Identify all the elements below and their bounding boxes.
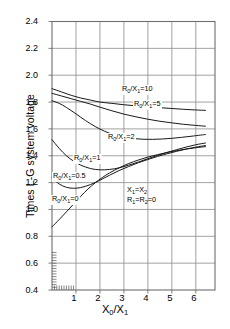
label-eq: =0.5 bbox=[71, 171, 85, 180]
curve-label-r0x1-10: R0/X1=10 bbox=[121, 85, 154, 95]
label-eq: =0 bbox=[70, 194, 78, 203]
label-eq: =5 bbox=[152, 99, 160, 108]
label-eq: =10 bbox=[140, 84, 152, 93]
plot-area bbox=[0, 0, 230, 329]
curve-label-r0x1-05: R0/X1=0.5 bbox=[52, 172, 87, 182]
curve-label-r0x1-5: R0/X1=5 bbox=[133, 100, 162, 110]
data-curve-1 bbox=[52, 93, 205, 126]
condition-note: X1=X2 R1=R2=0 bbox=[127, 186, 156, 206]
note-eq0: =0 bbox=[148, 195, 156, 204]
condition-note-line2: R1=R2=0 bbox=[127, 196, 156, 206]
curve-label-r0x1-2: R0/X1=2 bbox=[107, 133, 136, 143]
note-eqx2: =X bbox=[135, 185, 144, 194]
label-eq: =1 bbox=[92, 153, 100, 162]
note-eqr2: =R bbox=[135, 195, 145, 204]
curve-label-r0x1-0: R0/X1=0 bbox=[51, 195, 80, 205]
chart-container: Times L-G system voltage 2.4 2.2 2.0 1.8… bbox=[0, 0, 230, 329]
note-sub2: 2 bbox=[144, 189, 147, 195]
label-eq: =2 bbox=[126, 132, 134, 141]
curve-label-r0x1-1: R0/X1=1 bbox=[73, 154, 102, 164]
